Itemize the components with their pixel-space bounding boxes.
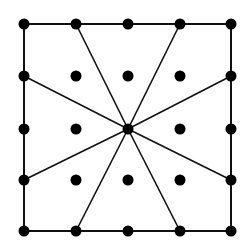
spoke-line: [24, 76, 128, 129]
diagram-svg: [0, 0, 250, 252]
lattice-dot: [19, 226, 30, 237]
lattice-diagram: [0, 0, 250, 252]
lattice-dots: [19, 19, 237, 237]
lattice-dot: [19, 175, 30, 186]
lattice-dot: [123, 71, 134, 82]
lattice-dot: [123, 124, 134, 135]
lattice-dot: [226, 19, 237, 30]
lattice-dot: [71, 226, 82, 237]
lattice-dot: [226, 175, 237, 186]
lattice-dot: [71, 19, 82, 30]
lattice-dot: [175, 226, 186, 237]
spoke-line: [76, 24, 128, 129]
lattice-dot: [226, 124, 237, 135]
lattice-dot: [123, 226, 134, 237]
spoke-line: [128, 24, 180, 129]
lattice-dot: [19, 19, 30, 30]
spoke-line: [128, 76, 231, 129]
spoke-line: [24, 129, 128, 180]
lattice-dot: [123, 175, 134, 186]
lattice-dot: [19, 71, 30, 82]
lattice-dot: [19, 124, 30, 135]
lattice-dot: [175, 71, 186, 82]
spoke-line: [128, 129, 231, 180]
lattice-dot: [175, 124, 186, 135]
lattice-dot: [71, 175, 82, 186]
lattice-dot: [175, 175, 186, 186]
lattice-dot: [226, 71, 237, 82]
lattice-dot: [71, 71, 82, 82]
lattice-dot: [71, 124, 82, 135]
lattice-dot: [123, 19, 134, 30]
spoke-line: [128, 129, 180, 231]
lattice-dot: [226, 226, 237, 237]
lattice-dot: [175, 19, 186, 30]
spoke-line: [76, 129, 128, 231]
